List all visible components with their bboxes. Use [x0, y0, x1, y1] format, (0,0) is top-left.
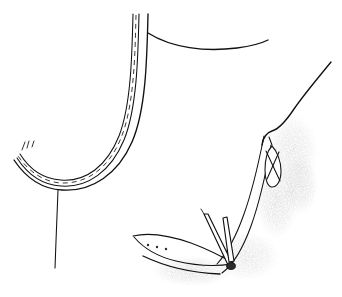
needle-vertical-knob — [227, 263, 236, 270]
tube-stub-b — [27, 141, 29, 148]
tube-structure — [14, 14, 148, 190]
shading-right-edge — [282, 155, 318, 215]
flap-marking-dot — [165, 248, 167, 250]
flap-marking-dot — [156, 246, 158, 248]
figure-canvas — [0, 0, 342, 297]
descending-suture-line — [55, 190, 58, 268]
flap-marking-dot — [147, 244, 149, 246]
tube-mid-wall — [17, 14, 139, 186]
shading-group — [152, 114, 318, 286]
tube-stub-a — [22, 142, 25, 150]
tube-stub-c — [32, 141, 34, 147]
illustration-svg — [0, 0, 342, 297]
top-tissue-contour — [148, 33, 268, 49]
tube-centerline — [18, 15, 136, 183]
needle-angled-tip — [201, 209, 204, 214]
